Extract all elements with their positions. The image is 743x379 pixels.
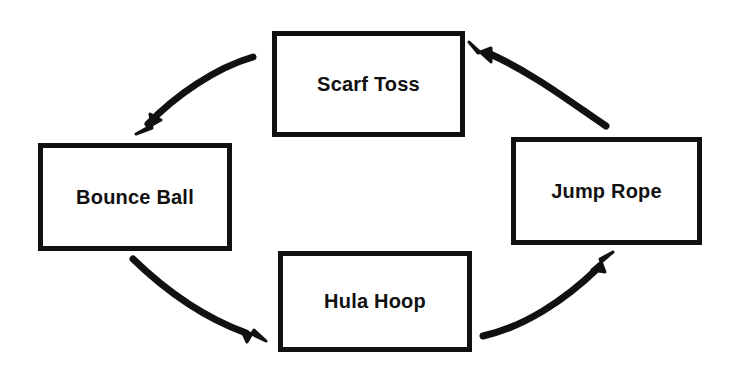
node-bounce-ball-label: Bounce Ball [76, 186, 194, 209]
edge-bounce-to-hula-line [133, 259, 246, 333]
edge-hula-to-jump-arrowhead [592, 252, 613, 272]
edge-bounce-to-hula [133, 259, 266, 342]
edge-hula-to-jump [483, 252, 613, 336]
edge-jump-to-scarf-arrowhead [469, 42, 491, 62]
edge-scarf-to-bounce [136, 57, 253, 134]
diagram-canvas: Scarf Toss Bounce Ball Hula Hoop Jump Ro… [0, 0, 743, 379]
edge-jump-to-scarf-line [488, 53, 606, 126]
edge-hula-to-jump-line [483, 268, 598, 336]
node-hula-hoop-label: Hula Hoop [324, 290, 426, 313]
edge-jump-to-scarf [469, 42, 606, 126]
edge-bounce-to-hula-arrowhead [241, 329, 266, 342]
edge-scarf-to-bounce-line [148, 57, 253, 124]
node-scarf-toss-label: Scarf Toss [317, 73, 420, 96]
node-jump-rope[interactable]: Jump Rope [511, 137, 702, 245]
node-hula-hoop[interactable]: Hula Hoop [278, 251, 472, 352]
node-jump-rope-label: Jump Rope [551, 180, 662, 203]
node-bounce-ball[interactable]: Bounce Ball [38, 143, 232, 251]
node-scarf-toss[interactable]: Scarf Toss [272, 31, 465, 137]
